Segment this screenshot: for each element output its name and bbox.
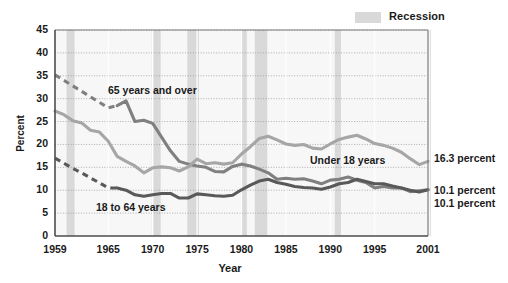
x-tick-label: 1995	[352, 243, 398, 255]
y-tick-label: 45	[18, 23, 48, 35]
plot-area	[0, 0, 508, 283]
end-label-adults: 10.1 percent	[434, 197, 495, 209]
recession-band	[430, 30, 431, 236]
y-tick-label: 5	[18, 206, 48, 218]
y-tick-label: 30	[18, 92, 48, 104]
x-tick-label: 1965	[85, 243, 131, 255]
y-tick-label: 35	[18, 69, 48, 81]
x-tick-label: 1959	[32, 243, 78, 255]
recession-band	[335, 30, 341, 236]
recession-band	[67, 30, 75, 236]
y-tick-label: 20	[18, 137, 48, 149]
poverty-rate-chart: Recession Percent Year 05101520253035404…	[0, 0, 508, 283]
y-tick-label: 25	[18, 115, 48, 127]
x-tick-label: 1980	[219, 243, 265, 255]
recession-band	[242, 30, 247, 236]
series-label-under18: Under 18 years	[310, 154, 385, 166]
series-label-adults: 18 to 64 years	[96, 201, 165, 213]
x-tick-label: 1985	[263, 243, 309, 255]
y-tick-label: 15	[18, 160, 48, 172]
x-tick-label: 1975	[174, 243, 220, 255]
y-tick-label: 40	[18, 46, 48, 58]
y-tick-label: 0	[18, 229, 48, 241]
recession-band	[255, 30, 267, 236]
x-tick-label: 2001	[405, 243, 451, 255]
y-axis-title: Percent	[15, 104, 26, 164]
series-label-over65: 65 years and over	[108, 84, 197, 96]
x-tick-label: 1970	[130, 243, 176, 255]
y-tick-label: 10	[18, 183, 48, 195]
end-label-under18: 16.3 percent	[434, 152, 495, 164]
x-axis-title: Year	[190, 262, 270, 274]
x-tick-label: 1990	[307, 243, 353, 255]
end-label-over65: 10.1 percent	[434, 184, 495, 196]
